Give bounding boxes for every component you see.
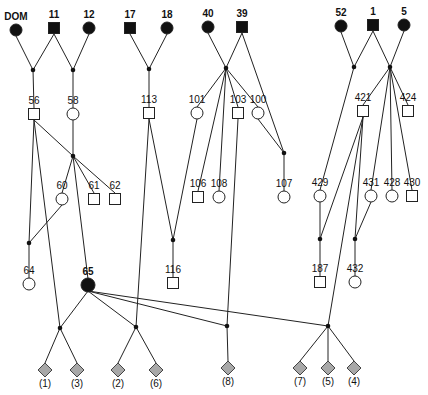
junction-dot xyxy=(134,325,139,330)
individual-label: (4) xyxy=(348,376,360,387)
individual-39: 39 xyxy=(236,8,248,33)
edge-5-j6 xyxy=(390,31,404,67)
junction-dot xyxy=(31,68,36,73)
edge-j14-c2 xyxy=(118,327,136,363)
junction-dot xyxy=(58,326,63,331)
individual-424: 424 xyxy=(400,92,417,117)
unaffected-male-symbol xyxy=(168,278,179,289)
affected-male-symbol xyxy=(125,23,136,34)
edge-1-j6 xyxy=(373,31,390,67)
individual-label: 64 xyxy=(23,265,35,276)
individual-label: 421 xyxy=(355,92,372,103)
individual-label: 431 xyxy=(363,177,380,188)
individual-60: 60 xyxy=(56,180,68,205)
individual-label: (2) xyxy=(112,378,124,389)
individual-c8: (8) xyxy=(221,361,235,387)
individual-label: 65 xyxy=(82,266,94,277)
unknown-sex-diamond-symbol xyxy=(38,363,52,377)
unaffected-male-symbol xyxy=(89,194,100,205)
junction-dot xyxy=(388,65,393,70)
edge-j13-c3 xyxy=(60,328,77,363)
junction-dot xyxy=(326,324,331,329)
individual-62: 62 xyxy=(109,180,121,205)
edge-18-j3 xyxy=(149,34,167,69)
edge-65-j14 xyxy=(88,291,136,327)
edge-j4-108 xyxy=(219,68,226,191)
edge-j6-428 xyxy=(390,67,392,190)
individual-label: (3) xyxy=(71,378,83,389)
individual-17: 17 xyxy=(124,9,136,34)
unaffected-female-symbol xyxy=(278,191,290,203)
edge-j13-c1 xyxy=(45,328,60,363)
individual-label: 116 xyxy=(165,264,181,275)
individual-label: 56 xyxy=(28,95,40,106)
affected-female-symbol xyxy=(81,278,95,292)
individual-label: (1) xyxy=(39,378,51,389)
edge-j15-c8 xyxy=(227,326,228,361)
individual-label: 428 xyxy=(384,177,401,188)
affected-female-symbol xyxy=(83,22,95,34)
individual-label: 62 xyxy=(109,180,121,191)
unaffected-male-symbol xyxy=(315,277,326,288)
unaffected-female-symbol xyxy=(314,190,326,202)
junction-dot xyxy=(225,324,230,329)
individual-c2: (2) xyxy=(111,363,125,389)
unaffected-male-symbol xyxy=(233,108,244,119)
individual-12: 12 xyxy=(83,9,95,34)
unaffected-female-symbol xyxy=(191,107,203,119)
individual-label: 106 xyxy=(190,178,207,189)
unknown-sex-diamond-symbol xyxy=(70,363,84,377)
edge-100-j8 xyxy=(258,119,284,153)
individual-52: 52 xyxy=(335,7,347,32)
edge-j6-431 xyxy=(371,67,390,190)
individual-label: 39 xyxy=(236,8,248,19)
edge-11-j1 xyxy=(33,34,54,70)
individual-c4: (4) xyxy=(347,361,361,387)
unaffected-female-symbol xyxy=(56,193,68,205)
edge-65-j13 xyxy=(60,291,88,328)
individual-c1: (1) xyxy=(38,363,52,389)
individual-label: 430 xyxy=(404,177,421,188)
edge-DOM-j1 xyxy=(16,36,33,70)
individual-label: 40 xyxy=(202,8,214,19)
edge-12-j2 xyxy=(73,34,89,70)
junction-dot xyxy=(147,67,152,72)
individual-40: 40 xyxy=(202,8,214,33)
individual-58: 58 xyxy=(67,95,79,120)
individual-label: 100 xyxy=(250,94,267,105)
individual-11: 11 xyxy=(49,9,60,34)
unaffected-female-symbol xyxy=(386,190,398,202)
edge-j7-65 xyxy=(73,156,88,279)
individual-65: 65 xyxy=(81,266,95,292)
junction-dot xyxy=(282,151,287,156)
individual-label: 58 xyxy=(67,95,79,106)
individual-label: 60 xyxy=(56,180,68,191)
pedigree-diagram: DOM1112171840395215565811310110310042142… xyxy=(0,0,428,395)
mating-junctions xyxy=(27,65,393,331)
affected-female-symbol xyxy=(398,19,410,31)
individual-c5: (5) xyxy=(321,361,335,387)
junction-dot xyxy=(318,237,323,242)
individual-1: 1 xyxy=(368,6,379,31)
individual-label: 1 xyxy=(370,6,376,17)
edge-52-j5 xyxy=(341,32,354,67)
individual-label: 429 xyxy=(312,177,329,188)
edge-j5-429 xyxy=(320,67,354,190)
edge-113-j10 xyxy=(149,119,173,240)
unaffected-male-symbol xyxy=(110,194,121,205)
individual-c3: (3) xyxy=(70,363,84,389)
individual-18: 18 xyxy=(161,9,173,34)
edge-j14-c6 xyxy=(136,327,156,363)
edge-113-j14 xyxy=(136,119,149,327)
individual-label: 18 xyxy=(161,9,173,20)
edge-j16-c7 xyxy=(300,326,328,361)
individual-label: 187 xyxy=(312,263,329,274)
junction-dot xyxy=(352,65,357,70)
unknown-sex-diamond-symbol xyxy=(221,361,235,375)
affected-female-symbol xyxy=(10,24,22,36)
individual-c6: (6) xyxy=(149,363,163,389)
edge-56-j13 xyxy=(34,120,60,328)
individual-label: (5) xyxy=(322,376,334,387)
individual-64: 64 xyxy=(23,265,35,290)
individual-label: 5 xyxy=(401,6,407,17)
